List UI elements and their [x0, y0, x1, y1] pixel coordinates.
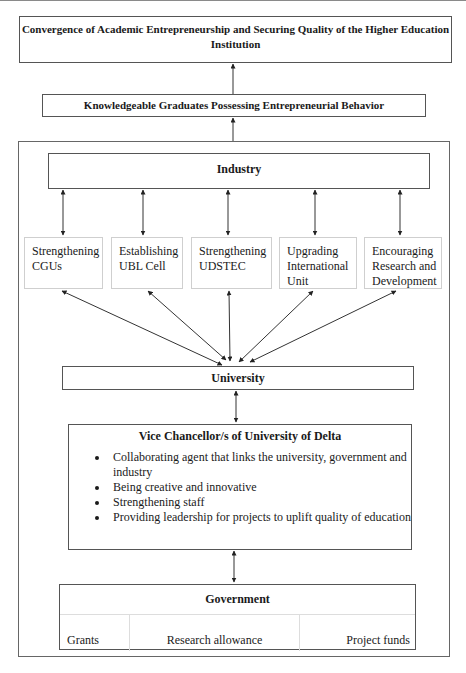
industry-box: Industry: [48, 153, 430, 189]
vice-chancellor-roles-list: Collaborating agent that links the unive…: [69, 450, 411, 525]
initiative-label: Strengthening CGUs: [32, 244, 99, 273]
initiative-label: Strengthening UDSTEC: [199, 244, 266, 273]
convergence-box: Convergence of Academic Entrepreneurship…: [19, 16, 452, 63]
graduates-outcome-label: Knowledgeable Graduates Possessing Entre…: [84, 99, 384, 111]
initiative-box-international-unit: Upgrading International Unit: [279, 237, 357, 289]
role-item: Collaborating agent that links the unive…: [109, 450, 411, 480]
initiative-label: Encouraging Research and Development: [372, 244, 437, 288]
initiative-label: Upgrading International Unit: [287, 244, 348, 288]
role-item: Being creative and innovative: [109, 480, 411, 495]
university-label: University: [211, 371, 264, 385]
initiative-box-research-development: Encouraging Research and Development: [364, 237, 442, 289]
graduates-outcome-box: Knowledgeable Graduates Possessing Entre…: [42, 94, 426, 117]
role-item: Providing leadership for projects to upl…: [109, 510, 411, 525]
role-item: Strengthening staff: [109, 495, 411, 510]
government-box: Government Grants Research allowance Pro…: [59, 584, 416, 650]
initiative-label: Establishing UBL Cell: [119, 244, 178, 273]
government-label: Government: [60, 585, 415, 615]
funding-grants: Grants: [60, 615, 130, 651]
funding-project-funds: Project funds: [300, 615, 416, 651]
initiative-box-ubl-cell: Establishing UBL Cell: [111, 237, 183, 289]
university-box: University: [62, 366, 414, 390]
initiative-box-cgus: Strengthening CGUs: [24, 237, 103, 289]
ecosystem-frame: [18, 141, 450, 657]
convergence-label: Convergence of Academic Entrepreneurship…: [22, 23, 449, 50]
vice-chancellor-box: Vice Chancellor/s of University of Delta…: [68, 424, 412, 550]
government-funding-row: Grants Research allowance Project funds: [60, 615, 415, 651]
vice-chancellor-title: Vice Chancellor/s of University of Delta: [69, 429, 411, 444]
initiative-box-udstec: Strengthening UDSTEC: [191, 237, 272, 289]
funding-research-allowance: Research allowance: [130, 615, 300, 651]
industry-label: Industry: [217, 162, 262, 176]
